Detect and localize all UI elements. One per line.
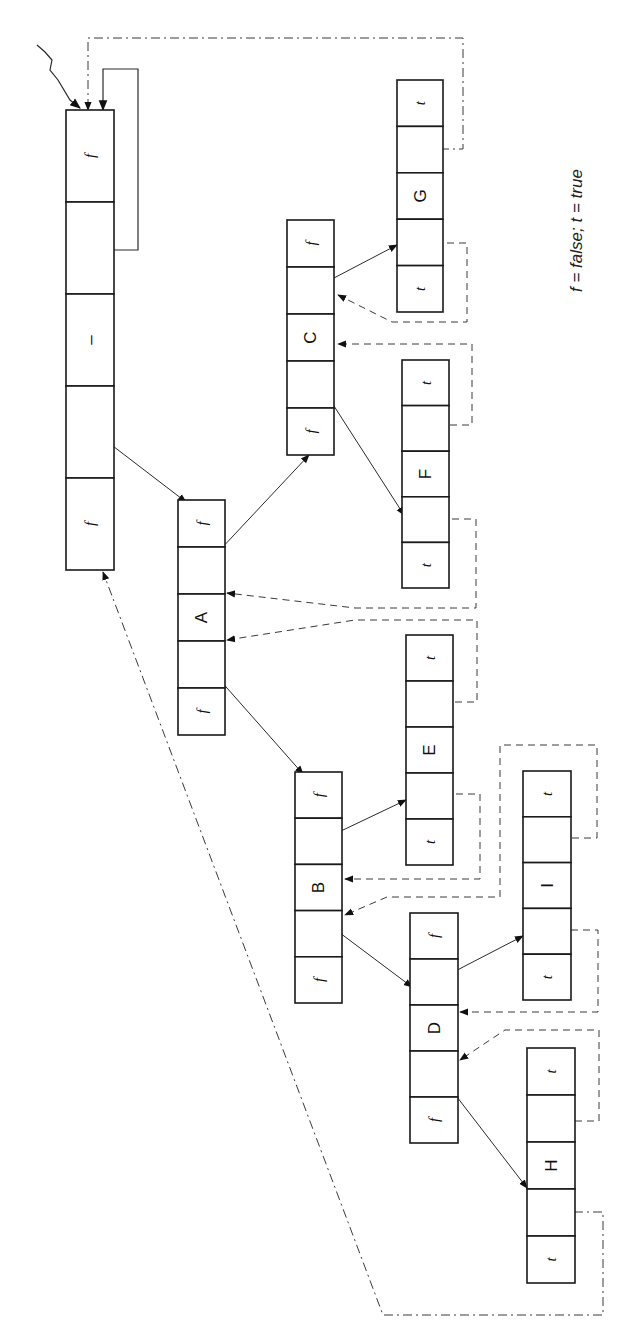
node-c: fCf — [287, 220, 334, 455]
node-cell — [178, 641, 225, 688]
node-b: fBf — [295, 772, 342, 1003]
node-cell — [406, 681, 453, 727]
node-cell — [287, 267, 334, 314]
node-label: D — [425, 1022, 444, 1034]
node-cell — [66, 202, 114, 294]
node-cell — [66, 386, 114, 478]
node-h: tHt — [527, 1048, 575, 1283]
node-i: tIt — [523, 771, 571, 1000]
node-label: G — [411, 189, 430, 202]
node-g: tGt — [397, 80, 443, 312]
legend: f = false; t = true — [567, 169, 586, 292]
tree-nodes: f–ffAffCftGttFttEtfBftItfDftHt — [66, 80, 575, 1283]
node-cell — [178, 547, 225, 594]
node-label: C — [301, 331, 320, 343]
node-cell — [523, 817, 571, 863]
node-label: – — [81, 335, 100, 345]
node-cell — [410, 959, 458, 1005]
node-label: I — [538, 883, 557, 888]
node-label: A — [192, 611, 211, 623]
node-cell — [397, 219, 443, 265]
node-cell — [402, 406, 449, 452]
node-head: f–f — [66, 110, 114, 570]
node-a: fAf — [178, 500, 225, 735]
node-e: tEt — [406, 635, 453, 865]
node-cell — [527, 1189, 575, 1236]
legend-text: f = false; t = true — [567, 169, 586, 292]
threaded-binary-tree-diagram: f–ffAffCftGttFttEtfBftItfDftHt f = false… — [0, 0, 633, 1338]
node-d: fDf — [410, 913, 458, 1143]
node-cell — [295, 911, 342, 957]
node-cell — [527, 1095, 575, 1142]
node-cell — [402, 497, 449, 543]
node-cell — [295, 818, 342, 864]
node-cell — [287, 361, 334, 408]
node-cell — [410, 1051, 458, 1097]
node-label: H — [542, 1159, 561, 1171]
node-cell — [523, 908, 571, 954]
node-cell — [397, 126, 443, 172]
head-pointer — [37, 45, 80, 108]
node-label: E — [420, 744, 439, 755]
node-label: B — [309, 882, 328, 893]
node-f: tFt — [402, 360, 449, 588]
node-cell — [406, 773, 453, 819]
node-label: F — [416, 469, 435, 479]
